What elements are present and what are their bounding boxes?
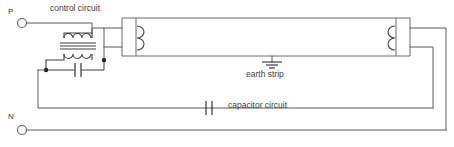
fluorescent-tube-body [122,18,410,56]
right-electrode-filament [388,26,395,50]
capacitor-circuit-label: capacitor circuit [228,101,287,110]
terminal-phase-label: P [8,8,13,16]
wire-right-electrode-bottom-to-cap-rail [410,47,433,108]
terminal-phase-circle [18,19,27,28]
wire-phase-to-choke [27,23,92,33]
choke-upper-winding [64,34,91,39]
earth-strip-label: earth strip [246,70,284,79]
terminal-neutral-label: N [8,113,14,121]
choke-lower-winding [64,54,91,59]
terminal-neutral-circle [18,126,27,135]
wire-choke-to-electrode-branch [92,28,104,60]
circuit-diagram: P N control circuit earth strip capacito… [0,0,454,147]
wire-control-cap-right [82,60,104,70]
left-electrode-filament [137,26,144,50]
control-circuit-label: control circuit [50,4,100,13]
choke-lower-left-lead [46,54,64,70]
circuit-schematic [0,0,454,147]
wire-right-electrode-top-to-neutral [410,28,446,130]
